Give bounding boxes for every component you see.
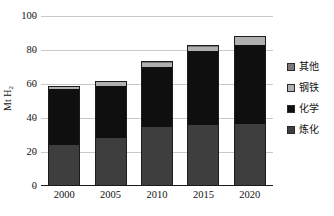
x-axis-tick-label: 2010 xyxy=(134,189,180,201)
bar-group[interactable] xyxy=(95,81,127,186)
bars-layer xyxy=(41,16,273,186)
legend-item[interactable]: 化学 xyxy=(287,98,334,119)
chart-legend: 其他钢铁化学炼化 xyxy=(287,56,334,140)
y-axis-tick-label: 80 xyxy=(3,45,37,56)
bar-segment[interactable] xyxy=(95,138,127,186)
bar-segment[interactable] xyxy=(234,45,266,124)
bar-group[interactable] xyxy=(234,36,266,186)
y-axis-tick-label: 40 xyxy=(3,113,37,124)
bar-segment[interactable] xyxy=(95,86,127,138)
legend-swatch-icon xyxy=(287,105,295,113)
legend-item[interactable]: 钢铁 xyxy=(287,77,334,98)
legend-item-label: 其他 xyxy=(299,62,319,72)
legend-item[interactable]: 其他 xyxy=(287,56,334,77)
legend-swatch-icon xyxy=(287,63,295,71)
plot-area xyxy=(41,16,273,186)
x-axis-line xyxy=(41,185,273,186)
bar-group[interactable] xyxy=(187,45,219,186)
y-axis-tick-label: 0 xyxy=(3,181,37,192)
y-axis-ticks: 020406080100 xyxy=(0,16,37,186)
stacked-bar-chart: Mt H2 020406080100 20002005201020152020 … xyxy=(0,0,334,216)
y-axis-tick-mark xyxy=(33,16,37,17)
legend-swatch-icon xyxy=(287,126,295,134)
bar-segment[interactable] xyxy=(48,145,80,186)
bar-segment[interactable] xyxy=(234,37,266,45)
y-axis-tick-mark xyxy=(33,50,37,51)
bar-segment[interactable] xyxy=(234,124,266,186)
y-axis-tick-mark xyxy=(33,152,37,153)
x-axis-tick-label: 2020 xyxy=(227,189,273,201)
legend-item-label: 炼化 xyxy=(299,125,319,135)
bar-segment[interactable] xyxy=(187,51,219,125)
bar-segment[interactable] xyxy=(187,125,219,186)
legend-item[interactable]: 炼化 xyxy=(287,119,334,140)
x-axis-tick-label: 2015 xyxy=(180,189,226,201)
y-axis-tick-mark xyxy=(33,186,37,187)
legend-item-label: 化学 xyxy=(299,104,319,114)
legend-swatch-icon xyxy=(287,84,295,92)
y-axis-tick-label: 100 xyxy=(3,11,37,22)
x-axis-labels: 20002005201020152020 xyxy=(41,189,273,205)
legend-item-label: 钢铁 xyxy=(299,83,319,93)
bar-segment[interactable] xyxy=(141,67,173,127)
bar-group[interactable] xyxy=(48,86,80,186)
x-axis-tick-label: 2005 xyxy=(87,189,133,201)
y-axis-tick-label: 20 xyxy=(3,147,37,158)
bar-segment[interactable] xyxy=(48,89,80,145)
y-axis-tick-mark xyxy=(33,118,37,119)
bar-group[interactable] xyxy=(141,61,173,186)
x-axis-tick-label: 2000 xyxy=(41,189,87,201)
y-axis-tick-mark xyxy=(33,84,37,85)
bar-segment[interactable] xyxy=(141,127,173,186)
y-axis-tick-label: 60 xyxy=(3,79,37,90)
